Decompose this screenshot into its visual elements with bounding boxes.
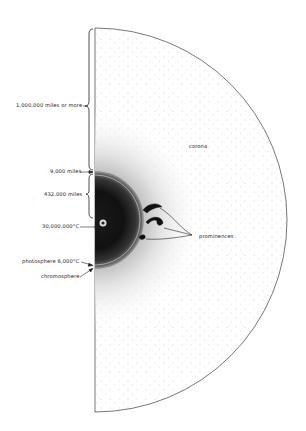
corona-label: corona <box>189 143 207 149</box>
core-temperature-label: 30,000,000°C <box>42 223 79 229</box>
corona-extent-label: 1,000,000 miles or more <box>16 102 82 108</box>
chromosphere-thickness-label: 9,000 miles <box>50 168 81 174</box>
photosphere-label: photosphere 6,000°C <box>22 258 79 264</box>
core-marker <box>100 220 107 227</box>
prominences-label: prominences <box>199 233 234 239</box>
chromosphere-label: chromosphere <box>41 273 79 279</box>
sun-structure-diagram <box>0 0 306 431</box>
corona-extent-bracket <box>85 29 93 170</box>
sun-radius-bracket <box>86 174 93 218</box>
sun-radius-label: 432,000 miles <box>44 191 82 197</box>
